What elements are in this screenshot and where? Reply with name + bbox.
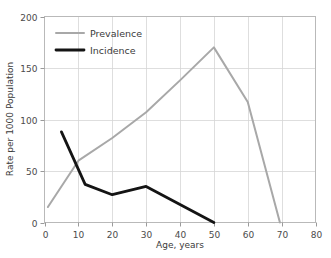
- y-axis-title: Rate per 1000 Population: [5, 62, 15, 176]
- legend-label-incidence: Incidence: [90, 45, 136, 56]
- y-tick-label: 100: [20, 116, 37, 126]
- y-tick-label: 150: [20, 64, 37, 74]
- x-tick-label: 40: [175, 230, 187, 240]
- y-tick-label: 200: [20, 13, 37, 23]
- x-tick-label: 60: [243, 230, 255, 240]
- x-tick-label: 10: [73, 230, 85, 240]
- chart-figure: 01020304050607080 050100150200 Prevalenc…: [0, 0, 331, 258]
- line-chart-svg: 01020304050607080 050100150200 Prevalenc…: [0, 0, 331, 258]
- y-tick-label: 0: [32, 219, 38, 229]
- x-tick-label: 50: [209, 230, 221, 240]
- x-tick-label: 0: [43, 230, 49, 240]
- legend-label-prevalence: Prevalence: [90, 28, 142, 39]
- x-tick-label: 20: [107, 230, 119, 240]
- x-tick-label: 70: [277, 230, 289, 240]
- x-axis-title: Age, years: [156, 240, 204, 250]
- y-tick-label: 50: [26, 167, 38, 177]
- x-tick-label: 80: [311, 230, 323, 240]
- chart-background: [0, 0, 331, 258]
- x-tick-label: 30: [141, 230, 153, 240]
